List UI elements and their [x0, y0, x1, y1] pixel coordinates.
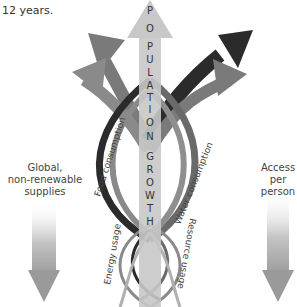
supplies-label: Global, non-renewable supplies [2, 162, 88, 198]
supplies-down-arrow [28, 200, 60, 302]
svg-text:O: O [146, 177, 154, 188]
svg-text:I: I [149, 104, 152, 115]
svg-text:O: O [146, 23, 154, 34]
svg-text:P: P [147, 41, 153, 52]
svg-text:L: L [147, 67, 153, 78]
access-down-arrow [262, 190, 294, 302]
svg-text:N: N [146, 131, 153, 142]
access-label: Access per person [252, 162, 297, 198]
energy-usage-label: Energy usage [102, 223, 123, 286]
population-growth-diagram: P O P U L A T I O N G R O W T H Food con… [0, 0, 297, 307]
svg-text:R: R [147, 164, 154, 175]
svg-text:A: A [147, 80, 154, 91]
svg-text:T: T [146, 92, 154, 103]
svg-text:O: O [146, 117, 154, 128]
svg-text:G: G [146, 151, 154, 162]
svg-text:P: P [147, 5, 153, 16]
svg-text:H: H [146, 216, 154, 227]
svg-text:U: U [146, 54, 153, 65]
svg-text:W: W [145, 190, 155, 201]
svg-text:T: T [146, 203, 154, 214]
